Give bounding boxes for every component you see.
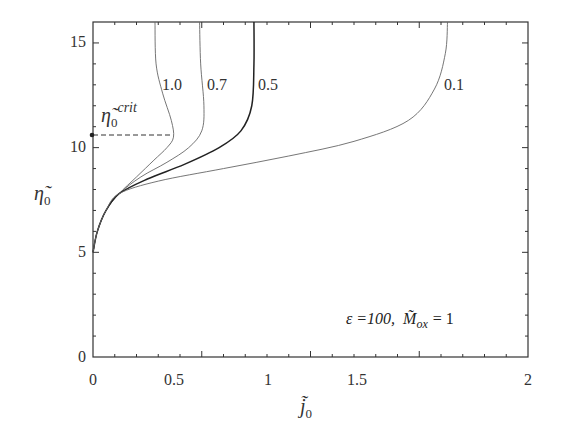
curve-label-0.7: 0.7	[207, 76, 227, 93]
y-tick-5: 5	[78, 243, 86, 260]
y-tick-0: 0	[78, 348, 86, 365]
curves	[93, 22, 448, 252]
x-tick-2: 2	[524, 371, 532, 388]
x-tick-1.5: 1.5	[347, 371, 367, 388]
curve-1.0	[93, 22, 174, 252]
y-tick-15: 15	[70, 33, 86, 50]
y-axis-label: η̃0	[34, 182, 52, 208]
y-tick-10: 10	[70, 138, 86, 155]
curve-label-0.1: 0.1	[444, 76, 464, 93]
critical-label: η̃0crit	[101, 100, 138, 130]
axis-ticks	[93, 22, 528, 357]
curve-label-1.0: 1.0	[162, 76, 182, 93]
curve-0.7	[93, 22, 204, 252]
x-tick-0: 0	[89, 371, 97, 388]
curve-0.1	[93, 22, 448, 252]
x-axis-label: j̃0	[297, 395, 312, 421]
plot-frame	[93, 22, 528, 357]
x-tick-0.5: 0.5	[164, 371, 184, 388]
curve-label-0.5: 0.5	[258, 76, 278, 93]
x-tick-1: 1	[264, 371, 272, 388]
chart: 0 5 10 15 0 0.5 1 1.5 2 η̃0 j̃0 η̃0crit …	[0, 0, 562, 438]
parameter-annotation: ε =100,M̃ox= 1	[346, 310, 454, 331]
critical-point	[90, 133, 95, 138]
